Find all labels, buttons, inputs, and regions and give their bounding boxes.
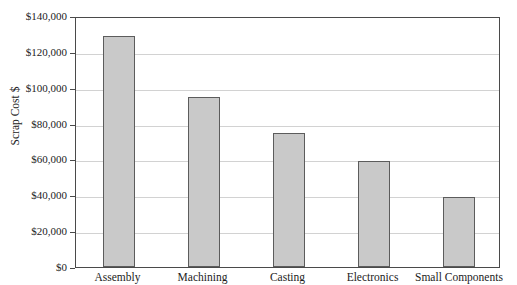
bar[interactable] xyxy=(188,97,220,267)
gridline xyxy=(76,54,499,55)
x-tick-label: Machining xyxy=(160,271,245,283)
bar[interactable] xyxy=(273,133,305,267)
gridline xyxy=(76,90,499,91)
bar[interactable] xyxy=(358,161,390,267)
bar-chart: Scrap Cost $ $140,000$120,000$100,000$80… xyxy=(0,0,517,285)
x-tick-label: Assembly xyxy=(75,271,160,283)
gridline xyxy=(76,126,499,127)
bar[interactable] xyxy=(103,36,135,267)
y-tick-label: $20,000 xyxy=(0,225,67,237)
y-tick-label: $40,000 xyxy=(0,189,67,201)
y-tick-mark xyxy=(70,268,75,269)
y-tick-label: $140,000 xyxy=(0,10,67,22)
y-tick-label: $120,000 xyxy=(0,46,67,58)
y-tick-label: $100,000 xyxy=(0,82,67,94)
y-tick-label: $0 xyxy=(0,261,67,273)
bar[interactable] xyxy=(443,197,475,267)
plot-area xyxy=(75,17,500,268)
x-tick-label: Small Components xyxy=(415,271,500,283)
y-tick-label: $60,000 xyxy=(0,153,67,165)
x-tick-label: Casting xyxy=(245,271,330,283)
y-tick-label: $80,000 xyxy=(0,118,67,130)
x-tick-label: Electronics xyxy=(330,271,415,283)
chart-title xyxy=(0,0,517,2)
